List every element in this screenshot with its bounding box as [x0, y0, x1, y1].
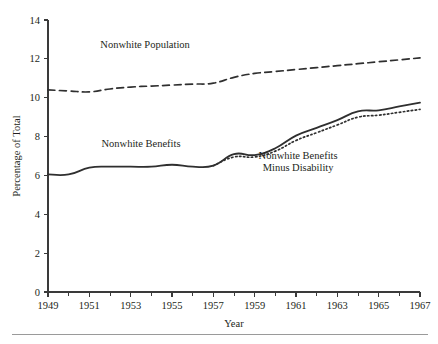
x-tick-label: 1965	[368, 300, 389, 311]
label-minus-disability-line1: Nonwhite Benefits	[259, 150, 338, 161]
line-chart: 02468101214 1949195119531955195719591961…	[0, 0, 438, 344]
y-tick-label: 6	[35, 170, 40, 181]
label-nonwhite-population: Nonwhite Population	[100, 39, 190, 50]
x-tick-label: 1959	[244, 300, 265, 311]
y-tick-label: 12	[30, 53, 41, 64]
y-tick-label: 8	[35, 131, 40, 142]
y-tick-label: 10	[30, 92, 41, 103]
x-tick-label: 1957	[203, 300, 224, 311]
x-axis-title: Year	[224, 318, 244, 329]
y-tick-label: 0	[35, 287, 40, 298]
label-minus-disability-line2: Minus Disability	[263, 162, 335, 173]
x-tick-label: 1951	[79, 300, 100, 311]
x-tick-label: 1949	[38, 300, 59, 311]
y-axis-title: Percentage of Total	[11, 115, 22, 196]
label-nonwhite-benefits: Nonwhite Benefits	[101, 138, 180, 149]
x-tick-label: 1961	[286, 300, 307, 311]
x-tick-label: 1953	[120, 300, 141, 311]
x-tick-label: 1967	[410, 300, 431, 311]
y-tick-label: 2	[35, 248, 40, 259]
chart-figure: 02468101214 1949195119531955195719591961…	[0, 0, 438, 344]
y-tick-label: 4	[35, 209, 41, 220]
x-tick-label: 1955	[162, 300, 183, 311]
y-tick-label: 14	[30, 15, 41, 26]
x-tick-label: 1963	[327, 300, 348, 311]
